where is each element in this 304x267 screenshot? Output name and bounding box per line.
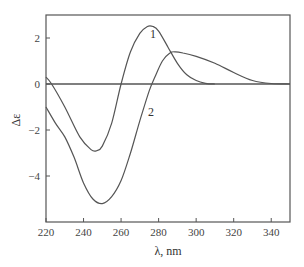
x-tick-label: 260 (113, 226, 130, 238)
curve-label-2: 2 (148, 105, 154, 119)
y-tick-label: 0 (35, 78, 41, 90)
x-tick-label: 340 (263, 226, 280, 238)
x-tick-label: 240 (75, 226, 92, 238)
x-ticks: 220240260280300320340 (38, 218, 280, 238)
x-tick-label: 220 (38, 226, 55, 238)
x-tick-label: 300 (188, 226, 205, 238)
y-tick-label: −2 (28, 124, 40, 136)
curve-1 (46, 26, 215, 152)
curve-labels: 12 (148, 27, 156, 119)
x-axis-label: λ, nm (154, 244, 182, 258)
curves (46, 26, 290, 204)
cd-spectrum-chart: 220240260280300320340 −4−202 12 λ, nm Δε (0, 0, 304, 267)
y-axis-label: Δε (9, 114, 23, 127)
y-tick-label: −4 (28, 170, 40, 182)
y-tick-label: 2 (35, 32, 41, 44)
x-tick-label: 320 (225, 226, 242, 238)
y-ticks: −4−202 (28, 32, 50, 182)
curve-label-1: 1 (150, 27, 156, 41)
curve-2 (46, 52, 290, 204)
x-tick-label: 280 (150, 226, 167, 238)
